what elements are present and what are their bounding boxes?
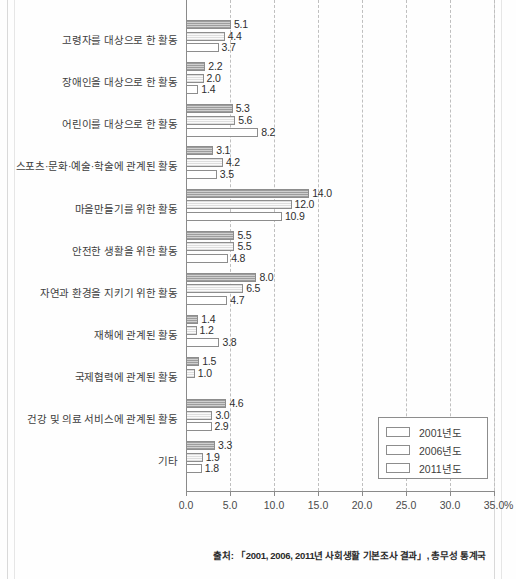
legend-swatch — [386, 427, 410, 437]
bar-value-label: 3.1 — [216, 144, 230, 156]
bar — [186, 74, 204, 83]
bar — [186, 296, 227, 305]
bar — [186, 284, 243, 293]
bar-value-label: 3.0 — [215, 409, 229, 421]
bar — [186, 464, 202, 473]
bar-value-label: 4.7 — [230, 294, 244, 306]
bar-value-label: 5.5 — [237, 229, 251, 241]
bar — [186, 338, 219, 347]
bar-value-label: 1.4 — [201, 83, 215, 95]
category-label: 마을만들기를 위한 활동 — [0, 201, 178, 216]
bar-value-label: 6.5 — [246, 282, 260, 294]
bar-value-label: 1.2 — [200, 324, 214, 336]
bar-value-label: 1.8 — [205, 462, 219, 474]
bar-value-label: 5.5 — [237, 240, 251, 252]
bar-value-label: 5.1 — [234, 18, 248, 30]
bar-value-label: 3.8 — [222, 336, 236, 348]
legend-swatch — [386, 463, 410, 473]
axis-tick-label: 25.0 — [396, 499, 416, 511]
bar — [186, 254, 228, 263]
bar-value-label: 4.6 — [229, 397, 243, 409]
bar-value-label: 3.7 — [222, 41, 236, 53]
bar — [186, 189, 309, 198]
legend-item[interactable]: 2001년도 — [386, 423, 487, 441]
bar-value-label: 14.0 — [312, 187, 332, 199]
axis-tick — [494, 491, 495, 496]
gridline — [274, 0, 275, 491]
bar — [186, 411, 212, 420]
bar — [186, 369, 195, 378]
legend-item[interactable]: 2011년도 — [386, 459, 487, 477]
bar — [186, 315, 198, 324]
category-label: 자연과 환경을 지키기 위한 활동 — [0, 285, 178, 300]
axis-tick-label: 10.0 — [264, 499, 284, 511]
bar-value-label: 8.2 — [261, 126, 275, 138]
axis-tick-label: 35.0 — [484, 499, 504, 511]
axis-tick-label: 0.0 — [179, 499, 194, 511]
bar-value-label: 5.3 — [236, 102, 250, 114]
bar-value-label: 4.4 — [228, 30, 242, 42]
bar — [186, 85, 198, 94]
axis-tick — [406, 491, 407, 496]
legend-label: 2006년도 — [419, 443, 462, 458]
bar — [186, 453, 203, 462]
category-axis-line — [186, 491, 494, 492]
category-label: 기타 — [0, 453, 178, 468]
axis-tick-label: 5.0 — [223, 499, 238, 511]
axis-tick — [274, 491, 275, 496]
bar — [186, 43, 219, 52]
axis-unit-label: % — [504, 499, 513, 511]
axis-tick — [450, 491, 451, 496]
bar — [186, 32, 225, 41]
category-label: 장애인을 대상으로 한 활동 — [0, 74, 178, 89]
legend-label: 2011년도 — [419, 461, 462, 476]
legend-item[interactable]: 2006년도 — [386, 441, 487, 459]
page-frame-right-inner — [501, 0, 502, 579]
source-note: 출처: 「2001, 2006, 2011년 사회생활 기본조사 결과」, 총무… — [0, 548, 486, 562]
bar — [186, 212, 282, 221]
bar-value-label: 4.2 — [226, 156, 240, 168]
source-note-clipped-line — [0, 572, 486, 579]
bar-value-label: 3.5 — [220, 168, 234, 180]
bar — [186, 441, 215, 450]
bar-value-label: 3.3 — [218, 439, 232, 451]
category-label: 어린이를 대상으로 한 활동 — [0, 116, 178, 131]
axis-tick-label: 20.0 — [352, 499, 372, 511]
bar-value-label: 1.4 — [201, 313, 215, 325]
bar — [186, 242, 234, 251]
bar-value-label: 8.0 — [259, 271, 273, 283]
bar-value-label: 2.9 — [215, 420, 229, 432]
horizontal-bar-chart: 고령자를 대상으로 한 활동장애인을 대상으로 한 활동어린이를 대상으로 한 … — [0, 0, 492, 520]
bar-value-label: 4.8 — [231, 252, 245, 264]
category-label: 국제협력에 관계된 활동 — [0, 369, 178, 384]
bar — [186, 128, 258, 137]
bar — [186, 357, 199, 366]
gridline — [494, 0, 495, 491]
category-label: 고령자를 대상으로 한 활동 — [0, 32, 178, 47]
legend-label: 2001년도 — [419, 425, 462, 440]
category-label: 건강 및 의료 서비스에 관계된 활동 — [0, 411, 178, 426]
axis-tick — [362, 491, 363, 496]
bar — [186, 273, 256, 282]
axis-tick — [186, 491, 187, 496]
axis-tick-label: 30.0 — [440, 499, 460, 511]
bar — [186, 170, 217, 179]
bar-value-label: 2.2 — [208, 60, 222, 72]
axis-tick — [230, 491, 231, 496]
chart-legend[interactable]: 2001년도2006년도2011년도 — [378, 417, 488, 479]
gridline — [362, 0, 363, 491]
category-label: 안전한 생활을 위한 활동 — [0, 243, 178, 258]
bar — [186, 422, 212, 431]
gridline — [318, 0, 319, 491]
bar — [186, 399, 226, 408]
bar — [186, 20, 231, 29]
bar-value-label: 2.0 — [207, 72, 221, 84]
bar-value-label: 5.6 — [238, 114, 252, 126]
bar-value-label: 10.9 — [285, 210, 305, 222]
bar-value-label: 1.0 — [198, 367, 212, 379]
bar — [186, 146, 213, 155]
bar — [186, 231, 234, 240]
legend-swatch — [386, 445, 410, 455]
bar — [186, 116, 235, 125]
bar — [186, 158, 223, 167]
